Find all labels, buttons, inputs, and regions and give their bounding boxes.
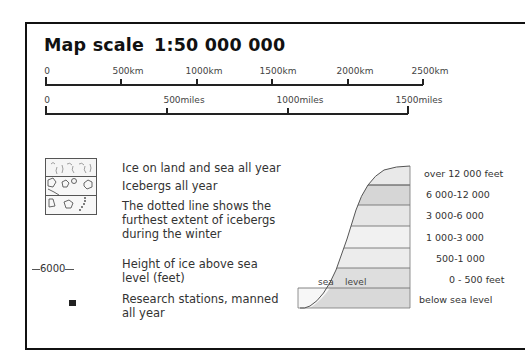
km-tick-label: 1000km xyxy=(186,66,223,76)
miles-tick xyxy=(45,106,47,114)
legend-ice-label: Ice on land and sea all year xyxy=(122,161,281,175)
scale-ratio: 1:50 000 000 xyxy=(154,35,285,55)
km-tick xyxy=(196,79,198,85)
elevation-band-label: 6 000-12 000 xyxy=(426,189,490,200)
elevation-band-label: below sea level xyxy=(419,294,492,305)
elevation-band-label: 1 000-3 000 xyxy=(426,232,484,243)
miles-tick-label: 1000miles xyxy=(277,95,324,105)
km-tick-label: 0 xyxy=(44,66,50,76)
elevation-band-label: 500-1 000 xyxy=(436,253,485,264)
legend-icebergs-label: Icebergs all year xyxy=(122,179,217,193)
map-scale-title: Map scale1:50 000 000 xyxy=(44,35,285,55)
miles-tick xyxy=(287,108,289,114)
km-bar-line xyxy=(45,84,423,86)
km-tick xyxy=(347,79,349,85)
legend-station-label: Research stations, manned all year xyxy=(122,292,282,320)
research-station-icon xyxy=(69,300,76,306)
contour-sample-value: 6000 xyxy=(40,263,65,274)
miles-tick xyxy=(407,106,409,114)
km-tick xyxy=(271,79,273,85)
km-tick-label: 500km xyxy=(112,66,143,76)
legend-height-label: Height of ice above sea level (feet) xyxy=(122,257,282,285)
contour-line-icon: 6000 xyxy=(32,263,74,274)
km-tick xyxy=(45,77,47,85)
iceberg-icon xyxy=(46,177,97,196)
km-tick-label: 1500km xyxy=(260,66,297,76)
legend-symbol-box xyxy=(45,158,97,215)
miles-tick-label: 1500miles xyxy=(396,95,443,105)
dotted-line-icon xyxy=(46,196,97,215)
elevation-key-diagram xyxy=(296,160,416,310)
legend-dotted-line-label: The dotted line shows the furthest exten… xyxy=(122,199,292,241)
km-tick xyxy=(422,79,424,85)
elevation-band-label: 0 - 500 feet xyxy=(449,274,504,285)
miles-tick-label: 500miles xyxy=(163,95,204,105)
ice-hatch-icon xyxy=(46,159,97,177)
miles-tick-label: 0 xyxy=(44,95,50,105)
miles-tick xyxy=(166,108,168,114)
elevation-band-label: 3 000-6 000 xyxy=(426,210,484,221)
elevation-band-label: over 12 000 feet xyxy=(424,168,503,179)
km-tick-label: 2500km xyxy=(412,66,449,76)
km-tick-label: 2000km xyxy=(337,66,374,76)
level-label: level xyxy=(345,277,366,287)
miles-bar-line xyxy=(45,113,408,115)
sea-label: sea xyxy=(318,277,334,287)
title-label: Map scale xyxy=(44,35,144,55)
km-tick xyxy=(120,79,122,85)
